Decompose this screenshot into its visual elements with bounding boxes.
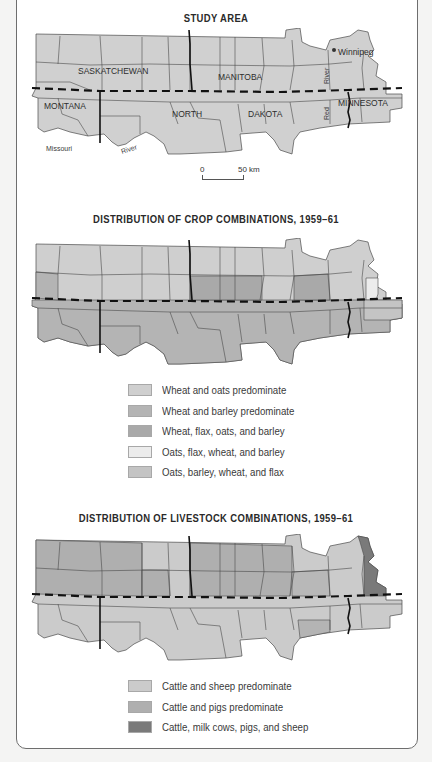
- crop-legend-item: Wheat and barley predominate: [128, 401, 312, 422]
- label-winnipeg: Winnipeg: [338, 47, 374, 57]
- legend-label: Cattle and sheep predominate: [162, 680, 292, 692]
- livestock-legend-item: Cattle and sheep predominate: [128, 676, 328, 697]
- legend-label: Wheat and oats predominate: [162, 384, 286, 396]
- scale-line: [202, 175, 244, 180]
- legend-label: Wheat, flax, oats, and barley: [162, 425, 285, 437]
- legend-swatch: [128, 446, 152, 458]
- legend-label: Wheat and barley predominate: [162, 405, 294, 417]
- livestock-legend-item: Cattle, milk cows, pigs, and sheep: [128, 717, 328, 738]
- legend-swatch: [128, 466, 152, 478]
- legend-label: Oats, flax, wheat, and barley: [162, 446, 285, 458]
- legend-label: Cattle and pigs predominate: [162, 701, 283, 713]
- legend-label: Cattle, milk cows, pigs, and sheep: [162, 721, 308, 733]
- livestock-map-title: DISTRIBUTION OF LIVESTOCK COMBINATIONS, …: [22, 512, 411, 524]
- livestock-legend-item: Cattle and pigs predominate: [128, 697, 328, 718]
- legend-swatch: [128, 701, 152, 713]
- legend-swatch: [128, 680, 152, 692]
- label-missouri: Missouri: [46, 145, 73, 152]
- legend-swatch: [128, 721, 152, 733]
- label-manitoba: MANITOBA: [218, 72, 263, 82]
- livestock-legend: Cattle and sheep predominate Cattle and …: [128, 676, 328, 738]
- legend-swatch: [128, 384, 152, 396]
- label-dakota: DAKOTA: [248, 109, 283, 119]
- crop-legend-item: Oats, barley, wheat, and flax: [128, 462, 312, 483]
- legend-label: Oats, barley, wheat, and flax: [162, 466, 284, 478]
- label-red: Red: [323, 107, 330, 120]
- crop-legend: Wheat and oats predominate Wheat and bar…: [128, 380, 312, 483]
- study-area-title: STUDY AREA: [22, 12, 411, 24]
- crop-map: [30, 238, 408, 368]
- label-red-river: River: [323, 67, 330, 84]
- label-saskatchewan: SASKATCHEWAN: [78, 66, 148, 76]
- label-montana: MONTANA: [44, 101, 86, 111]
- label-north: NORTH: [172, 109, 202, 119]
- label-minnesota: MINNESOTA: [338, 98, 388, 108]
- scale-bar: 0 50 km: [200, 168, 264, 182]
- scale-end: 50 km: [238, 165, 260, 174]
- crop-map-title: DISTRIBUTION OF CROP COMBINATIONS, 1959–…: [22, 213, 411, 225]
- study-area-map: SASKATCHEWAN MANITOBA MONTANA NORTH DAKO…: [30, 28, 408, 158]
- crop-legend-item: Wheat, flax, oats, and barley: [128, 421, 312, 442]
- livestock-map: [30, 534, 408, 664]
- crop-legend-item: Wheat and oats predominate: [128, 380, 312, 401]
- legend-swatch: [128, 425, 152, 437]
- scale-zero: 0: [200, 165, 204, 174]
- crop-legend-item: Oats, flax, wheat, and barley: [128, 442, 312, 463]
- legend-swatch: [128, 405, 152, 417]
